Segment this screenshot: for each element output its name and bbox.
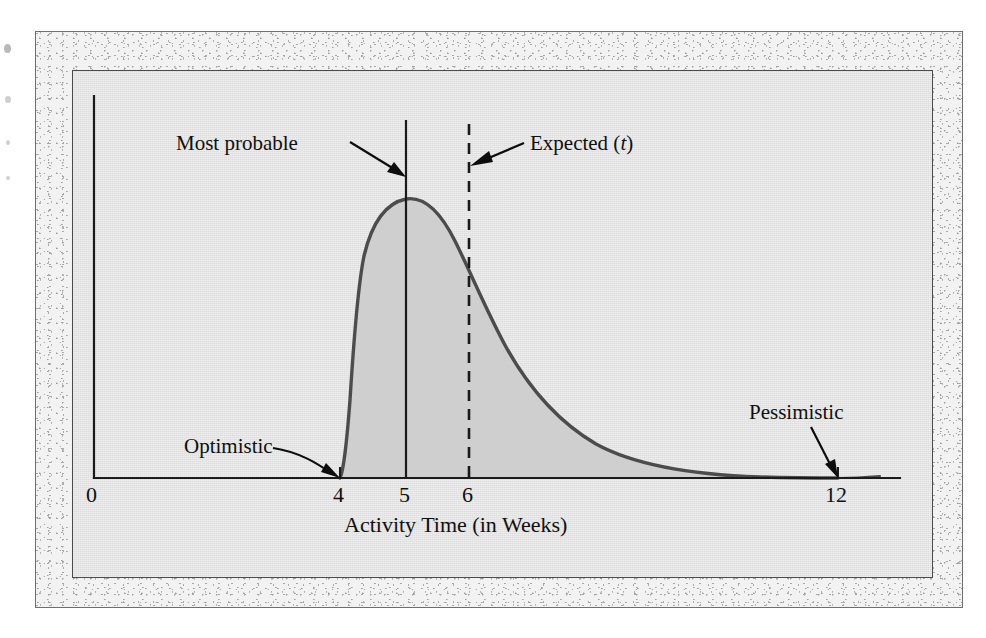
x-tick-label-12: 12 [825, 484, 847, 506]
x-axis-title: Activity Time (in Weeks) [344, 514, 567, 536]
x-tick-label-6: 6 [462, 484, 473, 506]
curve-shaded-area [340, 199, 838, 478]
pessimistic-arrowhead [825, 459, 838, 478]
annotation-optimistic: Optimistic [184, 436, 273, 457]
annotation-most-probable: Most probable [176, 133, 298, 154]
x-tick-label-5: 5 [399, 484, 410, 506]
annotation-expected-suffix: ) [626, 131, 633, 155]
annotation-pessimistic: Pessimistic [749, 402, 844, 423]
x-tick-label-4: 4 [333, 484, 344, 506]
optimistic-arrowhead [321, 463, 340, 478]
expected-arrowhead [470, 151, 493, 166]
annotation-expected-prefix: Expected ( [530, 131, 620, 155]
most-probable-arrowhead [387, 162, 406, 177]
x-tick-label-0: 0 [86, 484, 97, 506]
annotation-expected: Expected (t) [530, 133, 633, 154]
optimistic-leader [273, 448, 331, 473]
figure-page: 0 4 5 6 12 Activity Time (in Weeks) Most… [0, 0, 986, 638]
pessimistic-leader [811, 427, 832, 468]
distribution-chart [0, 0, 986, 638]
